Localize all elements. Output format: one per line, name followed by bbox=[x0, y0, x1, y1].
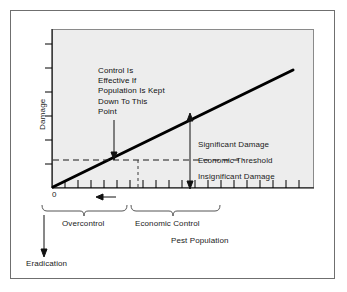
y-axis-title: Damage bbox=[38, 99, 47, 130]
brace-economic-control bbox=[131, 205, 220, 216]
overcontrol-direction-arrow bbox=[96, 194, 116, 200]
eradication-label: Eradication bbox=[26, 259, 67, 269]
brace-overcontrol bbox=[42, 205, 127, 216]
callout-arrow bbox=[111, 120, 117, 160]
damage-trend-line bbox=[53, 70, 293, 187]
damage-span-arrow bbox=[187, 113, 193, 189]
insignificant-damage-label: Insignificant Damage bbox=[198, 172, 275, 182]
x-axis-title: Pest Population bbox=[171, 236, 229, 246]
economic-threshold-label: Economic Threshold bbox=[198, 156, 273, 166]
overcontrol-label: Overcontrol bbox=[62, 219, 104, 229]
significant-damage-label: Significant Damage bbox=[198, 140, 269, 150]
control-callout-text: Control Is Effective If Population Is Ke… bbox=[98, 66, 165, 117]
figure-root: Damage 0 Control Is Effective If Populat… bbox=[0, 0, 347, 292]
origin-label: 0 bbox=[52, 190, 57, 200]
chart-vector-layer bbox=[0, 0, 347, 292]
eradication-arrow bbox=[41, 215, 47, 257]
economic-control-label: Economic Control bbox=[135, 219, 200, 229]
